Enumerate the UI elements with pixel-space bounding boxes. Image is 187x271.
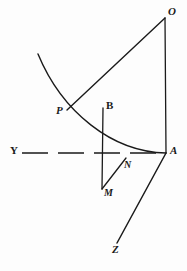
point-label-z: Z xyxy=(112,244,119,255)
figure-drawing-canvas xyxy=(0,0,187,271)
point-label-m: M xyxy=(104,188,113,198)
point-label-b: B xyxy=(106,100,113,111)
axis-label-y: Y xyxy=(10,145,18,156)
segment-line-m-to-n xyxy=(102,158,126,189)
point-label-p: P xyxy=(56,105,63,116)
point-label-o: O xyxy=(168,6,176,17)
vertical-line-o-to-a xyxy=(165,18,166,153)
figure-container: O P B A N M Y Z xyxy=(0,0,187,271)
vertical-line-b-to-m xyxy=(102,108,103,189)
point-label-a: A xyxy=(170,145,177,156)
chord-line-p-to-o xyxy=(67,18,165,110)
point-label-n: N xyxy=(124,160,131,170)
